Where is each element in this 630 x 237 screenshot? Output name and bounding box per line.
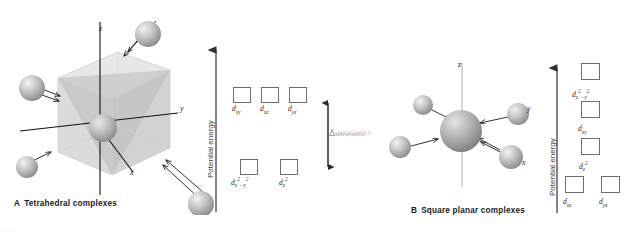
cube-wireframe <box>58 52 170 175</box>
axis-label-y-a: y <box>180 104 184 113</box>
orbital-label-dyz-a: dyz <box>288 104 296 115</box>
orbital-box-dxy-a[interactable] <box>233 87 251 103</box>
orbital-box-dz2-a[interactable] <box>280 159 298 175</box>
central-metal-atom-a <box>89 114 117 142</box>
orbital-label-dx2y2-a: dx2−y2 <box>231 176 248 188</box>
panel-a-letter: A <box>14 199 20 208</box>
bleed-text-tetrahedral: tetrahedral <box>338 129 372 136</box>
orbital-label-dz2-b: dz2 <box>579 160 588 172</box>
axis-label-z-a: z <box>99 24 102 33</box>
energy-axis-arrow-a <box>200 40 230 218</box>
axis-label-x-b: x <box>522 158 526 167</box>
orbital-label-dx2y2-b: dx2−y2 <box>572 88 589 100</box>
orbital-label-dxy-a: dxy <box>232 104 241 115</box>
panel-b-caption: BSquare planar complexes <box>411 206 525 215</box>
panel-a-caption: ATetrahedral complexes <box>14 199 117 208</box>
orbital-label-dxz-a: dxz <box>260 104 268 115</box>
orbital-box-dx2y2-b[interactable] <box>581 63 600 80</box>
axis-label-y-b: y <box>527 104 531 113</box>
orbital-box-dz2-b[interactable] <box>581 138 600 155</box>
figure-canvas: z y x ATetrahedral complexes - - - Poten… <box>0 0 630 237</box>
orbital-box-dxz-b[interactable] <box>565 176 584 193</box>
bleed-text-a: - - - <box>2 226 14 233</box>
panel-b-caption-text: Square planar complexes <box>421 206 525 215</box>
axis-label-x-a: x <box>130 168 134 177</box>
orbital-label-dz2-a: dz2 <box>279 176 288 188</box>
orbital-box-dxz-a[interactable] <box>261 87 279 103</box>
orbital-box-dxy-b[interactable] <box>581 101 600 118</box>
orbital-label-dxz-b: dxz <box>563 197 571 208</box>
energy-axis-label-b: Potential energy <box>548 138 557 196</box>
orbital-box-dyz-a[interactable] <box>289 87 307 103</box>
panel-b-letter: B <box>411 206 417 215</box>
central-metal-atom-b <box>440 110 482 152</box>
panel-a-caption-text: Tetrahedral complexes <box>24 199 117 208</box>
square-planar-model-graphic <box>380 55 545 195</box>
energy-axis-label-a: Potential energy <box>206 120 215 178</box>
orbital-label-dyz-b: dyz <box>599 197 607 208</box>
orbital-label-dxy-b: dxy <box>578 124 587 135</box>
orbital-box-dyz-b[interactable] <box>601 176 620 193</box>
axis-label-z-b: z <box>458 60 461 69</box>
orbital-box-dx2y2-a[interactable] <box>240 159 258 175</box>
